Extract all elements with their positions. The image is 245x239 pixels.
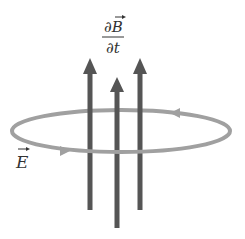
arrow-shaft-right [138, 70, 143, 210]
arrow-head-right-icon [133, 58, 147, 74]
e-field-loop-front [12, 131, 230, 152]
e-arrowhead-over-icon [26, 147, 30, 151]
db-dt-label: ∂B ∂t [102, 15, 126, 57]
db-dt-arrows [83, 58, 147, 228]
loop-arrowhead-top-icon [170, 108, 180, 118]
e-label-text: E [15, 152, 29, 172]
db-numerator: ∂B [104, 18, 123, 36]
e-field-label: E [15, 147, 30, 172]
dt-denominator: ∂t [106, 39, 121, 57]
arrow-head-middle-icon [110, 77, 124, 92]
arrow-head-left-icon [83, 58, 97, 74]
faraday-diagram: ∂B ∂t E [0, 0, 245, 239]
arrow-shaft-left [88, 70, 93, 210]
db-arrowhead-over-icon [122, 15, 126, 19]
e-field-loop-back [12, 110, 230, 131]
arrow-shaft-middle [115, 88, 120, 228]
